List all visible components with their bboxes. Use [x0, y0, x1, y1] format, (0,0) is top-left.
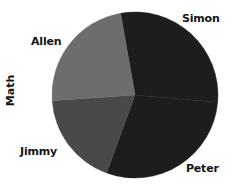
pie-label-simon: Simon: [182, 13, 220, 24]
pie-label-allen: Allen: [31, 36, 61, 47]
pie-label-jimmy: Jimmy: [20, 146, 57, 157]
pie-slice-allen[interactable]: [52, 13, 135, 101]
pie-chart-figure: Simon Peter Allen Jimmy Math: [0, 0, 236, 191]
pie-slice-simon[interactable]: [121, 12, 218, 102]
chart-axis-title: Math: [5, 67, 16, 115]
pie-label-peter: Peter: [186, 163, 219, 174]
pie-slices: [52, 12, 218, 178]
